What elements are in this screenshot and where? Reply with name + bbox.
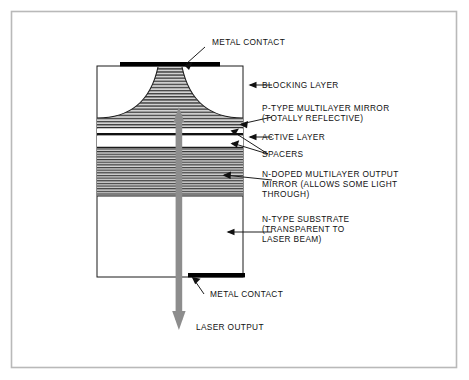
label-p-type-mirror-line1: P-TYPE MULTILAYER MIRROR [262,103,390,113]
metal-contact-top [120,62,220,66]
upper-spacer [97,129,243,134]
label-metal-contact-bottom: METAL CONTACT [210,289,283,299]
label-n-doped-line3: THROUGH) [262,189,310,199]
label-spacers: SPACERS [262,149,304,159]
label-active-layer: ACTIVE LAYER [262,132,325,142]
label-blocking-layer: BLOCKING LAYER [262,80,339,90]
label-n-substrate-line2: (TRANSPARENT TO [262,224,345,234]
label-n-doped-line1: N-DOPED MULTILAYER OUTPUT [262,169,399,179]
active-layer [97,133,243,136]
label-n-substrate-line1: N-TYPE SUBSTRATE [262,214,350,224]
p-mirror-band [97,118,243,128]
n-doped-multilayer-mirror [97,148,243,196]
metal-contact-bottom [188,273,245,277]
vcsel-diagram: METAL CONTACT BLOCKING LAYER P-TYPE MULT… [0,0,469,380]
n-type-substrate [98,197,243,277]
figure-container: METAL CONTACT BLOCKING LAYER P-TYPE MULT… [0,0,469,380]
label-p-type-mirror-line2: (TOTALLY REFLECTIVE) [262,113,363,123]
label-n-doped-line2: MIRROR (ALLOWS SOME LIGHT [262,179,398,189]
label-n-substrate-line3: LASER BEAM) [262,234,322,244]
label-laser-output: LASER OUTPUT [196,322,264,332]
lower-spacer [97,136,243,147]
label-metal-contact-top: METAL CONTACT [212,37,285,47]
